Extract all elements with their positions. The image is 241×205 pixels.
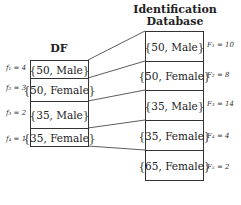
database-row: {50, Female}	[146, 62, 203, 91]
df-row: {35, Male}	[31, 102, 88, 129]
database-frequency-label: F₅ = 2	[207, 163, 229, 171]
database-frequency-label: F₂ = 8	[207, 71, 229, 79]
database-title: Identification Database	[130, 4, 220, 28]
database-frequency-label: F₃ = 14	[207, 100, 234, 108]
database-row-value: {35, Female}	[138, 130, 210, 142]
database-frequency-label: F₁ = 10	[207, 41, 234, 49]
df-frequency-label: f₂ = 3	[6, 84, 26, 92]
database-row-value: {50, Male}	[145, 41, 205, 53]
database-row: {35, Male}	[146, 91, 203, 121]
database-row: {35, Female}	[146, 121, 203, 151]
df-row-value: {35, Female}	[23, 132, 95, 144]
database-table: {50, Male} {50, Female} {35, Male} {35, …	[145, 31, 204, 181]
database-title-line2: Database	[130, 16, 220, 28]
df-row: {35, Female}	[31, 129, 88, 147]
database-frequency-label: F₄ = 4	[207, 132, 229, 140]
df-row: {50, Female}	[31, 79, 88, 102]
df-frequency-label: f₃ = 2	[6, 109, 26, 117]
df-frequency-label: f₁ = 4	[6, 64, 26, 72]
df-row: {50, Male}	[31, 61, 88, 79]
df-frequency-label: f₄ = 1	[6, 135, 26, 143]
df-title: DF	[30, 43, 88, 55]
df-row-value: {50, Female}	[23, 84, 95, 96]
database-row: {65, Female}	[146, 151, 203, 181]
database-row-value: {65, Female}	[138, 160, 210, 172]
database-row-value: {35, Male}	[145, 100, 205, 112]
database-row-value: {50, Female}	[138, 70, 210, 82]
df-table: {50, Male} {50, Female} {35, Male} {35, …	[30, 60, 89, 147]
df-row-value: {35, Male}	[30, 109, 90, 121]
df-row-value: {50, Male}	[30, 64, 90, 76]
diagram: DF Identification Database {50, Male} {5…	[0, 0, 241, 205]
database-row: {50, Male}	[146, 32, 203, 62]
